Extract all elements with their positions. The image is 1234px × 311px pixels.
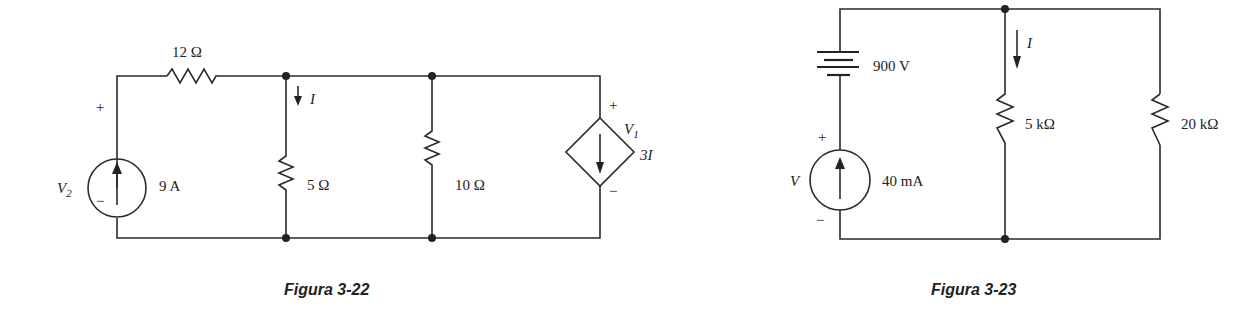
- wire-top: [840, 9, 1160, 94]
- figure-caption-3-22: Figura 3-22: [284, 281, 369, 299]
- resistor-10-ohm: [425, 76, 439, 238]
- node-dot: [282, 234, 290, 242]
- resistor-5k: [997, 9, 1013, 239]
- svg-text:−: −: [96, 193, 104, 209]
- arrow-up-icon: [112, 162, 122, 174]
- current-source-value: 9 A: [159, 178, 180, 194]
- svg-text:+: +: [818, 129, 826, 145]
- resistor-5-ohm-label: 5 Ω: [307, 177, 329, 193]
- node-dot: [428, 234, 436, 242]
- battery-label: 900 V: [873, 58, 910, 74]
- figure-3-22: 12 Ω + − V2 9 A I 5 Ω 10 Ω + − V1 3I: [57, 44, 654, 242]
- resistor-12-ohm-label: 12 Ω: [172, 44, 202, 60]
- resistor-5k-label: 5 kΩ: [1025, 116, 1055, 132]
- wire: [117, 76, 167, 188]
- circuit-diagrams: 12 Ω + − V2 9 A I 5 Ω 10 Ω + − V1 3I: [0, 0, 1234, 311]
- arrow-down-icon: [596, 162, 604, 174]
- node-dot: [282, 72, 290, 80]
- v1-label: V1: [624, 121, 639, 140]
- battery-900v: [817, 52, 859, 75]
- wire-bottom: [840, 145, 1160, 239]
- resistor-20k-label: 20 kΩ: [1181, 116, 1218, 132]
- figure-caption-3-23: Figura 3-23: [931, 281, 1016, 299]
- arrow-down-icon: [1013, 56, 1021, 69]
- node-dot: [428, 72, 436, 80]
- figure-3-23: 900 V + − V 40 mA I 5 kΩ 20 kΩ: [790, 5, 1218, 243]
- v2-label: V2: [57, 180, 72, 199]
- current-source-value: 40 mA: [882, 173, 923, 189]
- wire-top: [286, 76, 600, 118]
- current-i-label: I: [309, 91, 316, 107]
- resistor-20k: [1152, 94, 1168, 145]
- svg-text:+: +: [96, 99, 104, 115]
- svg-text:−: −: [816, 212, 824, 228]
- v-label: V: [790, 173, 801, 189]
- wire-bottom: [117, 198, 600, 238]
- arrow-up-icon: [835, 157, 845, 169]
- resistor-10-ohm-label: 10 Ω: [455, 177, 485, 193]
- node-dot: [1001, 5, 1009, 13]
- resistor-12-ohm: [167, 69, 286, 83]
- arrow-down-icon: [294, 96, 302, 106]
- dependent-source-value: 3I: [639, 147, 654, 163]
- node-dot: [1001, 235, 1009, 243]
- resistor-5-ohm: [279, 76, 293, 238]
- svg-text:−: −: [609, 183, 617, 199]
- current-i-label: I: [1026, 35, 1033, 51]
- svg-text:+: +: [609, 97, 617, 113]
